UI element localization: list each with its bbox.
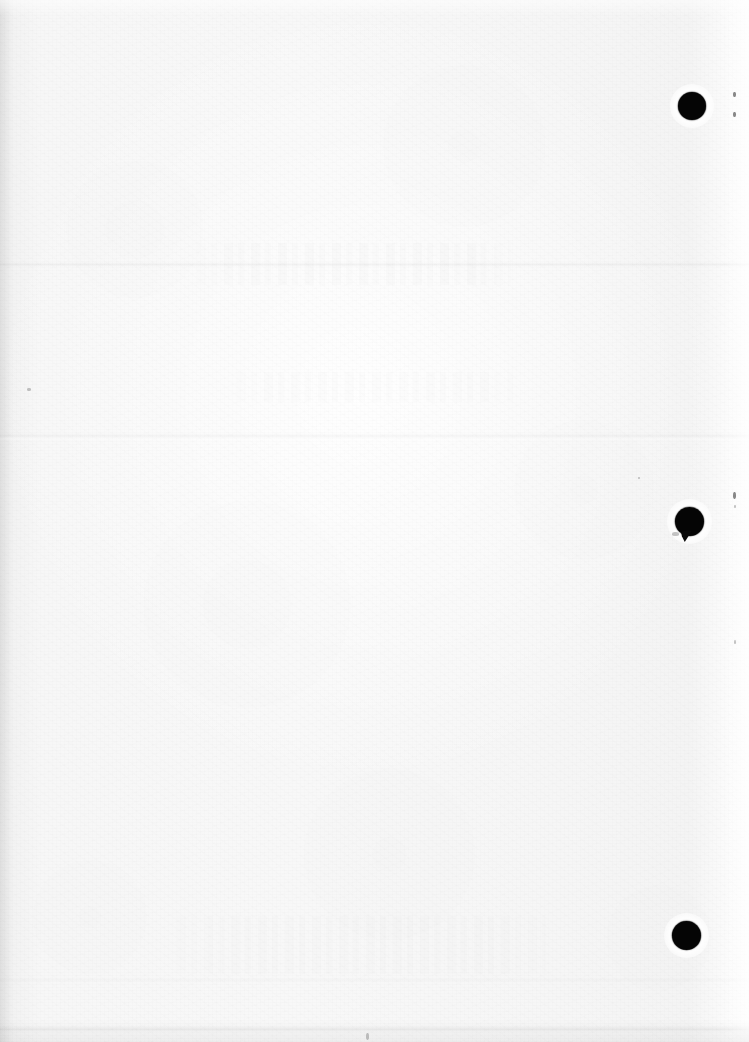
speck-right-mid-b	[734, 505, 736, 508]
bottom-edge-crease	[0, 1026, 749, 1032]
speck-mid-right	[638, 477, 640, 479]
ghost-band-lower	[150, 916, 580, 974]
scanned-page	[0, 0, 749, 1042]
paper-grain-texture	[0, 0, 749, 1042]
right-edge-glare	[723, 0, 749, 1042]
speck-right-upper-a	[733, 92, 736, 97]
speck-centre	[366, 1033, 369, 1040]
middle-binding-hole-smudge	[672, 532, 679, 536]
ghost-band-upper	[170, 243, 540, 285]
middle-crease	[0, 433, 749, 440]
middle-binding-hole	[675, 507, 704, 536]
lower-crease	[0, 978, 749, 982]
bottom-binding-hole	[672, 921, 701, 950]
top-binding-hole	[678, 92, 706, 120]
bottom-edge-shadow	[0, 1020, 749, 1042]
speck-right-mid-a	[733, 492, 736, 499]
paper-mottle-shading	[0, 0, 749, 1042]
upper-crease	[0, 262, 749, 267]
speck-right-upper-b	[733, 112, 736, 117]
speck-right-lower	[734, 640, 736, 644]
top-edge-glare	[0, 0, 749, 16]
speck-left-margin	[27, 388, 31, 391]
ghost-band-middle	[210, 372, 540, 402]
left-edge-shadow	[0, 0, 14, 1042]
